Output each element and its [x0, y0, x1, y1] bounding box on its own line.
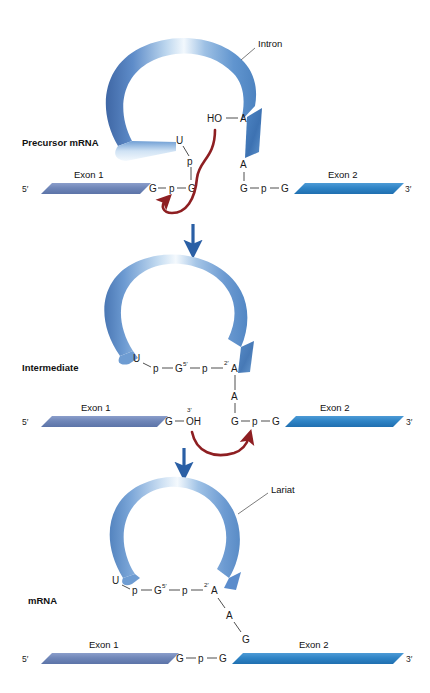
donor-p: p	[169, 183, 175, 194]
five-prime-terminus-mrna: 5′	[22, 654, 29, 664]
three-prime-terminus-precursor: 3′	[405, 184, 412, 194]
five-prime-terminus-precursor: 5′	[22, 184, 29, 194]
exon1-bar-mrna	[41, 653, 179, 664]
donor-g-left: G	[149, 183, 157, 194]
exon1-label-mrna: Exon 1	[89, 639, 119, 650]
mrna-lariat-p2: p	[182, 585, 188, 596]
intermediate-branch-a: A	[231, 363, 238, 374]
intermediate-u: U	[133, 353, 140, 364]
mrna-junction-p: p	[198, 653, 204, 664]
splicing-diagram-canvas: Intron Precursor mRNA 5′ Exon 1 G p G p …	[0, 0, 430, 693]
intermediate-exon1-g: G	[165, 416, 173, 427]
exon2-bar-mrna	[232, 653, 404, 664]
branch-adenosine-2-precursor: A	[240, 159, 247, 170]
exon2-bar	[294, 183, 404, 194]
mrna-junction-g-right: G	[219, 653, 227, 664]
branch-hydroxyl-precursor: HO	[207, 113, 222, 124]
mrna-lariat-a2: A	[226, 610, 233, 621]
exon2-label-precursor: Exon 2	[328, 169, 358, 180]
intermediate-p2: p	[202, 363, 208, 374]
lariat-label: Lariat	[271, 484, 295, 495]
exon1-bar-intermediate	[41, 416, 168, 427]
loop-u: U	[176, 135, 183, 146]
intermediate-a2: A	[231, 391, 238, 402]
five-prime-terminus-intermediate: 5′	[22, 417, 29, 427]
intron-label: Intron	[258, 38, 282, 49]
mrna-lariat-p1: p	[132, 585, 138, 596]
exon1-bar	[41, 183, 151, 194]
mrna-lariat-u: U	[112, 575, 119, 586]
exon2-bar-intermediate	[285, 416, 404, 427]
branch-adenosine-precursor: A	[240, 113, 247, 124]
loop-p: p	[187, 156, 193, 167]
exon1-label-intermediate: Exon 1	[81, 402, 111, 413]
acceptor-p: p	[261, 183, 267, 194]
three-prime-terminus-intermediate: 3′	[406, 417, 413, 427]
acceptor-g-left: G	[240, 183, 248, 194]
three-prime-terminus-mrna: 3′	[406, 654, 413, 664]
intermediate-exon1-oh: OH	[186, 416, 201, 427]
acceptor-g-right: G	[281, 183, 289, 194]
splicing-figure: Intron Precursor mRNA 5′ Exon 1 G p G p …	[0, 0, 430, 693]
stage-label-mrna: mRNA	[28, 595, 57, 606]
intermediate-p1: p	[153, 363, 159, 374]
mrna-lariat-branch-a: A	[211, 585, 218, 596]
mrna-lariat-g-end: G	[242, 634, 250, 645]
intermediate-acceptor-p: p	[252, 416, 258, 427]
exon2-label-intermediate: Exon 2	[320, 402, 350, 413]
intermediate-acceptor-g-right: G	[272, 416, 280, 427]
intermediate-g: G	[175, 363, 183, 374]
mrna-junction-g-left: G	[176, 653, 184, 664]
mrna-lariat-g: G	[154, 585, 162, 596]
stage-label-precursor: Precursor mRNA	[22, 137, 99, 148]
stage-label-intermediate: Intermediate	[22, 362, 79, 373]
exon1-label-precursor: Exon 1	[74, 169, 104, 180]
intermediate-acceptor-g-left: G	[231, 416, 239, 427]
exon2-label-mrna: Exon 2	[299, 639, 329, 650]
